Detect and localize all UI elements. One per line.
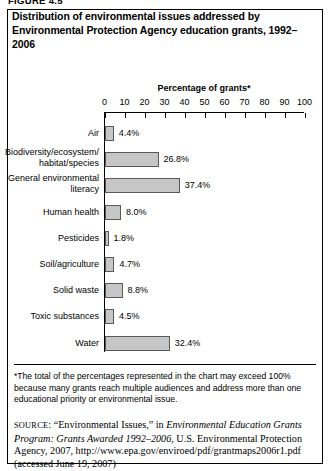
- x-tick-label: 20: [135, 97, 155, 107]
- bar-category-label: Air: [0, 128, 99, 139]
- bar-category-label: Solid waste: [0, 285, 99, 296]
- bar: [105, 126, 114, 141]
- x-tick-mark: [125, 113, 126, 118]
- x-tick-mark: [105, 113, 106, 118]
- bar: [105, 283, 123, 298]
- x-tick-mark: [305, 113, 306, 118]
- bar-row: Biodiversity/ecosystem/habitat/species26…: [0, 152, 316, 167]
- x-tick-label: 10: [115, 97, 135, 107]
- bar-row: Pesticides1.8%: [0, 231, 316, 246]
- bar-value-label: 1.8%: [114, 231, 135, 246]
- bar-row: Human health8.0%: [0, 205, 316, 220]
- footnote-divider: [14, 364, 316, 365]
- bar-row: Soil/agriculture4.7%: [0, 257, 316, 272]
- bar-row: Solid waste8.8%: [0, 283, 316, 298]
- bar-value-label: 8.0%: [126, 205, 147, 220]
- bar-row: Air4.4%: [0, 126, 316, 141]
- bar-value-label: 32.4%: [175, 336, 201, 351]
- bar: [105, 205, 121, 220]
- bar-value-label: 4.4%: [119, 126, 140, 141]
- bar: [105, 309, 114, 324]
- bar: [105, 152, 159, 167]
- bar-category-label: Soil/agriculture: [0, 259, 99, 270]
- x-tick-label: 80: [255, 97, 275, 107]
- x-tick-mark: [245, 113, 246, 118]
- bar-category-label: General environmentalliteracy: [0, 173, 99, 195]
- bar-row: Toxic substances4.5%: [0, 309, 316, 324]
- bar: [105, 336, 170, 351]
- x-tick-label: 60: [215, 97, 235, 107]
- x-tick-label: 40: [175, 97, 195, 107]
- source-prefix: SOURCE: [14, 421, 48, 430]
- bar-category-label: Biodiversity/ecosystem/habitat/species: [0, 147, 99, 169]
- x-tick-mark: [205, 113, 206, 118]
- bar-category-label: Water: [0, 338, 99, 349]
- x-tick-mark: [165, 113, 166, 118]
- x-tick-mark: [145, 113, 146, 118]
- bar-value-label: 4.5%: [119, 309, 140, 324]
- bar-value-label: 26.8%: [164, 152, 190, 167]
- bar: [105, 178, 180, 193]
- x-axis-title: Percentage of grants*: [104, 83, 304, 93]
- source-citation: SOURCE: “Environmental Issues,” in Envir…: [14, 419, 316, 470]
- x-tick-mark: [185, 113, 186, 118]
- bar-value-label: 8.8%: [128, 283, 149, 298]
- bar: [105, 257, 114, 272]
- x-tick-mark: [265, 113, 266, 118]
- bar-row: General environmentalliteracy37.4%: [0, 178, 316, 193]
- bar-category-label: Toxic substances: [0, 311, 99, 322]
- x-tick-label: 0: [95, 97, 115, 107]
- x-tick-label: 70: [235, 97, 255, 107]
- bar-category-label: Human health: [0, 207, 99, 218]
- x-tick-label: 30: [155, 97, 175, 107]
- bar-value-label: 37.4%: [185, 178, 211, 193]
- x-tick-mark: [225, 113, 226, 118]
- chart-plot-area: Percentage of grants* 010203040506070809…: [0, 0, 316, 360]
- bar-row: Water32.4%: [0, 336, 316, 351]
- bar-value-label: 4.7%: [119, 257, 140, 272]
- x-tick-mark: [285, 113, 286, 118]
- x-tick-label: 50: [195, 97, 215, 107]
- x-tick-label: 90: [275, 97, 295, 107]
- x-tick-label: 100: [295, 97, 315, 107]
- footnote-text: *The total of the percentages represente…: [14, 371, 314, 406]
- bar: [105, 231, 109, 246]
- bar-category-label: Pesticides: [0, 233, 99, 244]
- source-part1: : “Environmental Issues,” in: [48, 419, 166, 430]
